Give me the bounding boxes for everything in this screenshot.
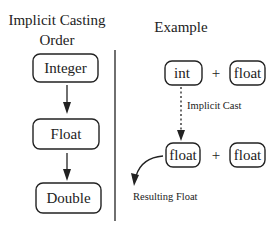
node-float: Float xyxy=(33,119,99,149)
resulting-float-label: Resulting Float xyxy=(133,191,198,202)
node-double-label: Double xyxy=(46,190,91,206)
arrow-float-to-double-icon xyxy=(63,153,71,181)
svg-text:float: float xyxy=(234,65,262,81)
implicit-cast-label: Implicit Cast xyxy=(187,100,242,111)
example-float-box-2: float xyxy=(166,143,200,167)
svg-text:float: float xyxy=(234,147,262,163)
svg-text:float: float xyxy=(169,147,197,163)
example-float-box-1: float xyxy=(230,61,265,85)
svg-text:int: int xyxy=(174,65,191,81)
node-integer: Integer xyxy=(33,54,98,82)
arrow-integer-to-float-icon xyxy=(63,85,71,114)
example-float-box-3: float xyxy=(230,143,265,167)
left-title-line2: Order xyxy=(40,32,75,48)
result-curved-arrow-icon xyxy=(131,156,163,186)
implicit-casting-diagram: Implicit Casting Order Integer Float Dou… xyxy=(0,0,278,230)
example-int-box: int xyxy=(165,61,202,85)
left-title-line1: Implicit Casting xyxy=(8,12,106,28)
node-integer-label: Integer xyxy=(44,60,86,76)
node-float-label: Float xyxy=(51,126,83,142)
implicit-cast-arrow-icon xyxy=(177,87,185,141)
plus-operator-1: + xyxy=(212,65,220,81)
plus-operator-2: + xyxy=(212,147,220,163)
node-double: Double xyxy=(36,183,101,213)
right-title: Example xyxy=(154,19,208,35)
